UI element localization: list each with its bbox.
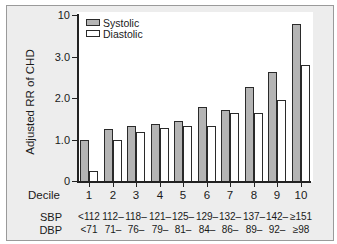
bar-systolic-decile-8 xyxy=(245,87,254,181)
x-tick-label: 6 xyxy=(197,189,217,201)
bar-systolic-decile-7 xyxy=(221,110,230,181)
bar-diastolic-decile-10 xyxy=(301,65,310,181)
legend: Systolic Diastolic xyxy=(86,17,143,39)
x-tick xyxy=(277,182,278,187)
legend-swatch-diastolic xyxy=(86,30,100,37)
y-tick-label: 10 xyxy=(30,9,70,21)
bar-diastolic-decile-9 xyxy=(277,100,286,181)
bar-systolic-decile-9 xyxy=(268,72,277,181)
bar-systolic-decile-3 xyxy=(127,126,136,181)
x-tick xyxy=(113,182,114,187)
x-tick xyxy=(136,182,137,187)
x-tick xyxy=(160,182,161,187)
x-tick-label: 5 xyxy=(173,189,193,201)
bar-diastolic-decile-5 xyxy=(183,126,192,181)
x-tick-label: 8 xyxy=(244,189,264,201)
legend-item-systolic: Systolic xyxy=(86,17,143,28)
bar-diastolic-decile-7 xyxy=(230,113,239,181)
bar-diastolic-decile-3 xyxy=(136,132,145,181)
legend-item-diastolic: Diastolic xyxy=(86,28,143,39)
x-tick-label: 1 xyxy=(79,189,99,201)
y-tick-label: 2.0 xyxy=(30,92,70,104)
x-tick xyxy=(230,182,231,187)
x-tick-label: 9 xyxy=(267,189,287,201)
y-tick-label: 0 xyxy=(30,175,70,187)
y-axis-line xyxy=(77,14,79,182)
dbp-range: ≥98 xyxy=(286,224,316,235)
x-tick-label: 3 xyxy=(126,189,146,201)
x-tick xyxy=(301,182,302,187)
dbp-label: DBP xyxy=(22,224,62,236)
legend-swatch-systolic xyxy=(86,19,100,26)
decile-label: Decile xyxy=(12,189,60,201)
x-tick-label: 4 xyxy=(150,189,170,201)
x-tick-label: 10 xyxy=(291,189,311,201)
bar-systolic-decile-4 xyxy=(151,124,160,181)
bar-diastolic-decile-8 xyxy=(254,113,263,181)
x-tick-label: 2 xyxy=(103,189,123,201)
bar-diastolic-decile-2 xyxy=(113,140,122,181)
bar-systolic-decile-1 xyxy=(80,140,89,181)
x-tick xyxy=(183,182,184,187)
x-tick-label: 7 xyxy=(220,189,240,201)
bar-systolic-decile-2 xyxy=(104,129,113,181)
bar-systolic-decile-10 xyxy=(292,24,301,181)
y-tick-label: 1.0 xyxy=(30,134,70,146)
sbp-range: ≥151 xyxy=(286,211,316,222)
sbp-label: SBP xyxy=(22,211,62,223)
bar-diastolic-decile-4 xyxy=(160,128,169,181)
bar-diastolic-decile-1 xyxy=(89,171,98,181)
y-tick-label: 3.0 xyxy=(30,51,70,63)
x-tick xyxy=(89,182,90,187)
bar-diastolic-decile-6 xyxy=(207,126,216,181)
bar-systolic-decile-5 xyxy=(174,121,183,181)
bar-systolic-decile-6 xyxy=(198,107,207,181)
x-tick xyxy=(207,182,208,187)
x-tick xyxy=(254,182,255,187)
legend-label-diastolic: Diastolic xyxy=(103,28,143,40)
